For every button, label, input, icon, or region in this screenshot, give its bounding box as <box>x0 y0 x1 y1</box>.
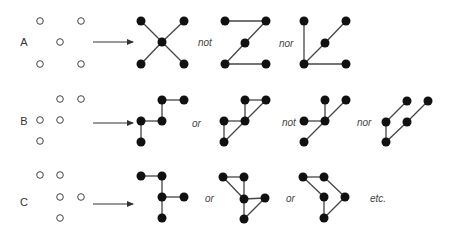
point-set <box>37 18 85 68</box>
graph-node <box>320 214 329 223</box>
graph-node <box>219 173 228 182</box>
graph-node <box>300 60 309 69</box>
graph-node <box>300 138 309 147</box>
spanning-tree-graph <box>220 96 271 147</box>
row-b: Bornotnor <box>20 96 432 147</box>
row-label: A <box>20 36 28 48</box>
graph-node <box>424 97 433 106</box>
graph-node <box>241 96 250 105</box>
connector-word: not <box>198 37 213 48</box>
graph-edge <box>162 42 184 64</box>
graph-node <box>158 38 167 47</box>
point-set <box>37 96 85 145</box>
spanning-tree-graph <box>300 96 351 147</box>
row-a: Anotnor <box>20 17 350 69</box>
graph-node <box>137 60 146 69</box>
graph-node <box>403 97 412 106</box>
open-point <box>57 194 64 201</box>
open-point <box>37 117 44 124</box>
graph-node <box>180 17 189 26</box>
graph-node <box>262 96 271 105</box>
graph-node <box>299 173 308 182</box>
graph-node <box>180 96 189 105</box>
graph-node <box>342 60 351 69</box>
graph-node <box>261 194 270 203</box>
spanning-tree-graph <box>299 173 350 223</box>
graph-edge <box>162 21 184 42</box>
graph-node <box>180 193 189 202</box>
connector-word: nor <box>279 38 294 49</box>
spanning-tree-graph <box>137 96 189 147</box>
graph-node <box>220 138 229 147</box>
row-label: B <box>20 115 27 127</box>
graph-node <box>342 17 351 26</box>
graph-node <box>137 17 146 26</box>
graph-node <box>382 118 391 127</box>
graph-diagram: AnotnorBornotnorCororetc. <box>0 0 450 238</box>
graph-node <box>403 118 412 127</box>
open-point <box>57 172 64 179</box>
graph-node <box>158 214 167 223</box>
graph-node <box>137 117 146 126</box>
graph-node <box>240 173 249 182</box>
graph-node <box>300 17 309 26</box>
graph-node <box>158 172 167 181</box>
graph-edge <box>141 42 162 64</box>
graph-node <box>320 193 329 202</box>
graph-node <box>158 117 167 126</box>
graph-edge <box>223 177 244 199</box>
graph-node <box>321 39 330 48</box>
graph-node <box>158 96 167 105</box>
graph-node <box>240 215 249 224</box>
graph-node <box>221 60 230 69</box>
open-point <box>57 117 64 124</box>
connector-word: etc. <box>370 193 386 204</box>
open-point <box>78 61 85 68</box>
graph-node <box>321 117 330 126</box>
open-point <box>57 215 64 222</box>
open-point <box>57 96 64 103</box>
open-point <box>37 61 44 68</box>
spanning-tree-graph <box>300 17 351 69</box>
graph-node <box>382 138 391 147</box>
graph-node <box>262 60 271 69</box>
graph-node <box>300 117 309 126</box>
graph-edge <box>325 21 346 43</box>
graph-node <box>241 117 250 126</box>
spanning-tree-graph <box>382 97 433 147</box>
graph-node <box>321 96 330 105</box>
graph-node <box>341 193 350 202</box>
graph-node <box>137 172 146 181</box>
open-point <box>78 194 85 201</box>
spanning-tree-graph <box>137 172 189 223</box>
point-set <box>37 172 85 222</box>
spanning-tree-graph <box>137 17 189 69</box>
spanning-tree-graph <box>221 17 271 69</box>
connector-word: or <box>205 193 215 204</box>
open-point <box>78 18 85 25</box>
open-point <box>37 18 44 25</box>
open-point <box>37 172 44 179</box>
connector-word: nor <box>357 117 372 128</box>
graph-node <box>220 117 229 126</box>
open-point <box>57 39 64 46</box>
graph-node <box>240 195 249 204</box>
open-point <box>78 96 85 103</box>
connector-word: or <box>192 118 202 129</box>
graph-node <box>180 60 189 69</box>
graph-node <box>221 17 230 26</box>
graph-node <box>342 96 351 105</box>
graph-node <box>320 173 329 182</box>
row-label: C <box>20 196 28 208</box>
graph-node <box>241 39 250 48</box>
graph-node <box>262 17 271 26</box>
graph-edge <box>245 21 266 43</box>
connector-word: not <box>282 117 297 128</box>
spanning-tree-graph <box>219 173 270 224</box>
graph-node <box>137 138 146 147</box>
row-c: Cororetc. <box>20 172 386 224</box>
graph-node <box>158 193 167 202</box>
open-point <box>37 138 44 145</box>
connector-word: or <box>286 193 296 204</box>
diagram-root: AnotnorBornotnorCororetc. <box>20 17 432 224</box>
